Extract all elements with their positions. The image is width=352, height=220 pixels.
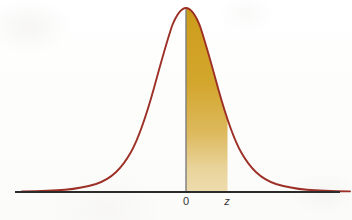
x-axis-tick-label-zero: 0 <box>178 196 194 207</box>
normal-distribution-figure: 0 z <box>0 0 352 220</box>
x-axis-tick-label-z: z <box>219 196 235 207</box>
normal-curve-plot <box>0 0 352 220</box>
